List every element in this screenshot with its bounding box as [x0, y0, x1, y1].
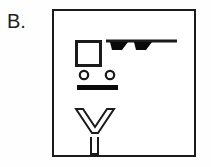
symbol-canvas: [52, 9, 196, 157]
ring-icon-right: [106, 71, 114, 79]
chevron-outline-path: [76, 109, 114, 133]
solid-bar-symbol: [77, 85, 118, 90]
chevron-outline-symbol: [76, 109, 114, 133]
stem-outline-symbol: [91, 137, 98, 154]
circle-pair-symbol: [80, 71, 114, 79]
solid-bar: [77, 85, 118, 90]
wind-barb-flag-2: [134, 42, 152, 50]
panel-label: B.: [7, 10, 26, 32]
stem-outline-path: [91, 137, 98, 154]
figure-root: B.: [0, 0, 211, 167]
ring-icon-left: [80, 71, 88, 79]
hollow-square-outline: [77, 42, 101, 66]
hollow-square-symbol: [77, 42, 101, 66]
wind-barb-symbol: [106, 40, 177, 51]
wind-barb-flag-1: [110, 42, 128, 50]
symbol-drawing: [52, 9, 196, 157]
